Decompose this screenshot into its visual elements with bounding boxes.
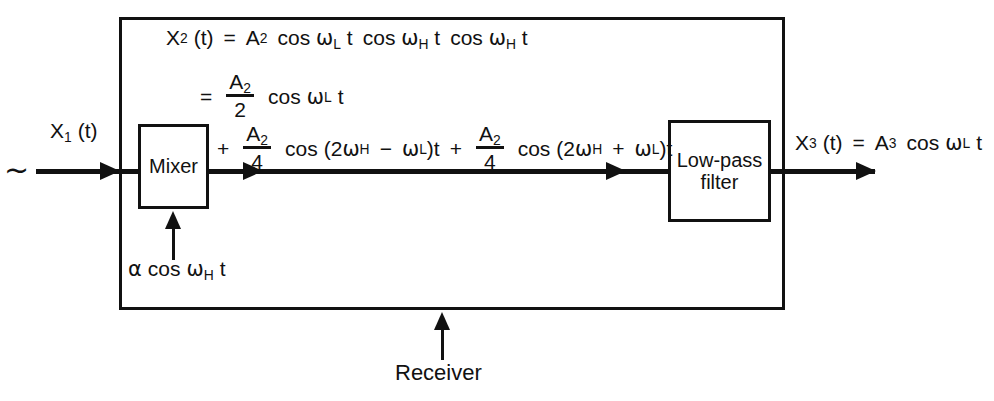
equation-line-2: = A2 2 cosωLt [200, 72, 343, 121]
equation-line-3: + A2 4 cos(2ωH−ωL)t+ A2 4 cos(2ωH+ωL)t [217, 124, 672, 173]
eq1-term1: cos ωL t [278, 26, 353, 50]
low-pass-filter-label-line2: filter [701, 171, 739, 193]
lo-omega-symbol: ω [187, 257, 204, 281]
eq3-minus: − [380, 137, 392, 161]
eq3-omega2: ω [402, 137, 419, 161]
diagram-canvas: ~ X1(t) Mixer αcosωHt X2(t)=A2cos ωL tco… [0, 0, 994, 401]
eq3-plus2: + [450, 137, 462, 161]
out-omega: ω [945, 131, 962, 155]
equation-line-1: X2(t)=A2cos ωL tcos ωH tcos ωH t [166, 26, 528, 50]
eq3-cos2: cos [518, 137, 551, 161]
out-equals: = [853, 131, 865, 155]
output-signal-label: X3(t)=A3cosωLt [795, 131, 982, 155]
eq3-omega4: ω [635, 137, 652, 161]
eq3-fraction-1: A2 4 [243, 123, 271, 172]
low-pass-filter-block-label: Low-pass filter [668, 120, 771, 222]
eq3-open2: (2 [556, 137, 575, 161]
eq2-denominator: 2 [226, 98, 254, 120]
eq3-denominator-2: 4 [476, 150, 504, 172]
eq1-lhs-arg: (t) [194, 26, 214, 50]
out-cos: cos [907, 131, 940, 155]
eq3-cos1: cos [285, 137, 318, 161]
out-t: t [976, 131, 982, 155]
eq1-equals: = [224, 26, 236, 50]
source-symbol: ~ [4, 155, 29, 185]
eq1-term2: cos ωH t [363, 26, 440, 50]
input-signal-name: X [50, 119, 64, 142]
eq1-lhs: X [166, 26, 180, 50]
low-pass-filter-label-line1: Low-pass [677, 149, 763, 171]
eq2-t: t [338, 85, 344, 109]
input-signal-subscript: 1 [64, 129, 72, 145]
local-oscillator-line [172, 228, 175, 260]
eq3-denominator-1: 4 [243, 150, 271, 172]
eq3-close1: )t [427, 137, 440, 161]
eq3-plus1: + [217, 137, 229, 161]
receiver-callout-arrowhead-icon [434, 312, 450, 330]
eq3-numerator-1: A2 [243, 123, 271, 145]
eq3-fraction-2: A2 4 [476, 123, 504, 172]
input-arrowhead-icon [100, 162, 120, 180]
lo-t: t [220, 257, 226, 280]
eq3-open1: (2 [324, 137, 343, 161]
local-oscillator-arrowhead-icon [165, 211, 181, 229]
eq2-fraction: A2 2 [226, 71, 254, 120]
input-signal-arg: (t) [78, 119, 98, 142]
eq2-cos: cos [268, 85, 301, 109]
out-lhs-arg: (t) [823, 131, 843, 155]
output-arrowhead-icon [856, 162, 876, 180]
eq2-numerator: A2 [226, 71, 254, 93]
input-signal-label: X1(t) [50, 120, 98, 141]
input-signal-line [36, 169, 138, 174]
eq1-term3: cos ωH t [450, 26, 527, 50]
eq3-omega3: ω [575, 137, 592, 161]
out-lhs: X [795, 131, 809, 155]
eq3-omega1: ω [342, 137, 359, 161]
lo-omega-subscript: H [204, 267, 214, 283]
receiver-callout-line [441, 330, 444, 360]
eq3-numerator-2: A2 [476, 123, 504, 145]
mixer-block-label: Mixer [138, 124, 209, 209]
alpha-symbol: α [128, 257, 142, 281]
receiver-label: Receiver [395, 362, 482, 384]
eq2-equals: = [200, 85, 212, 109]
eq3-plus3: + [612, 137, 624, 161]
eq1-amp: A [246, 26, 260, 50]
lo-cos: cos [148, 257, 181, 280]
eq2-omega: ω [307, 85, 324, 109]
local-oscillator-label: αcosωHt [128, 258, 226, 280]
out-amp: A [875, 131, 889, 155]
